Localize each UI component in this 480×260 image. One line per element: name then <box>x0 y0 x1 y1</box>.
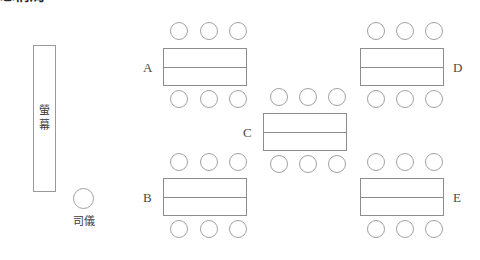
seat-a-top-2[interactable] <box>200 22 218 40</box>
seat-a-top-1[interactable] <box>170 22 188 40</box>
mc-seat-label: 司儀 <box>60 212 108 228</box>
seat-d-top-2[interactable] <box>396 22 414 40</box>
table-surface-c[interactable] <box>263 113 347 151</box>
page-title: 忘情局 <box>0 0 45 3</box>
seat-b-bottom-1[interactable] <box>170 220 188 238</box>
seat-d-top-3[interactable] <box>425 22 443 40</box>
seat-e-bottom-2[interactable] <box>396 220 414 238</box>
seat-b-top-3[interactable] <box>229 153 247 171</box>
seat-d-top-1[interactable] <box>367 22 385 40</box>
table-label-a: A <box>143 61 152 74</box>
seat-c-bottom-2[interactable] <box>299 155 317 173</box>
seat-d-bottom-2[interactable] <box>396 90 414 108</box>
seat-c-top-2[interactable] <box>299 88 317 106</box>
seat-c-top-3[interactable] <box>328 88 346 106</box>
projection-screen: 螢 幕 <box>33 45 56 192</box>
seat-a-bottom-3[interactable] <box>229 90 247 108</box>
seat-b-bottom-2[interactable] <box>200 220 218 238</box>
seat-b-bottom-3[interactable] <box>229 220 247 238</box>
seat-a-bottom-2[interactable] <box>200 90 218 108</box>
seating-plan-diagram: 忘情局 螢 幕 司儀 ADCBE <box>0 0 480 260</box>
seat-e-top-2[interactable] <box>396 153 414 171</box>
seat-d-bottom-3[interactable] <box>425 90 443 108</box>
table-label-b: B <box>143 191 152 204</box>
seat-c-bottom-3[interactable] <box>328 155 346 173</box>
projection-screen-label: 螢 幕 <box>34 103 55 135</box>
table-label-e: E <box>453 191 461 204</box>
table-label-c: C <box>243 126 252 139</box>
mc-seat-circle <box>73 188 94 209</box>
table-surface-b[interactable] <box>163 178 247 216</box>
table-surface-e[interactable] <box>360 178 444 216</box>
seat-c-bottom-1[interactable] <box>270 155 288 173</box>
seat-a-top-3[interactable] <box>229 22 247 40</box>
seat-a-bottom-1[interactable] <box>170 90 188 108</box>
seat-e-bottom-3[interactable] <box>425 220 443 238</box>
seat-e-top-1[interactable] <box>367 153 385 171</box>
seat-d-bottom-1[interactable] <box>367 90 385 108</box>
seat-e-top-3[interactable] <box>425 153 443 171</box>
seat-b-top-2[interactable] <box>200 153 218 171</box>
seat-c-top-1[interactable] <box>270 88 288 106</box>
table-surface-d[interactable] <box>360 48 444 86</box>
table-label-d: D <box>453 61 462 74</box>
seat-b-top-1[interactable] <box>170 153 188 171</box>
seat-e-bottom-1[interactable] <box>367 220 385 238</box>
table-surface-a[interactable] <box>163 48 247 86</box>
